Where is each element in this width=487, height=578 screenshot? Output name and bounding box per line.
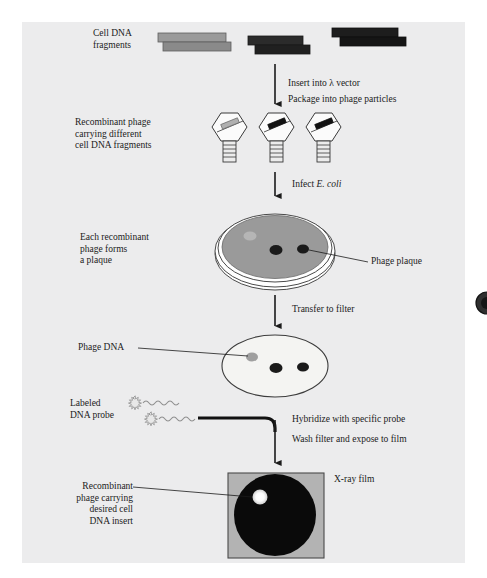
phage-1-tail bbox=[223, 141, 236, 162]
probe-1 bbox=[128, 396, 179, 410]
label-wash-and-expose: Wash filter and expose to film bbox=[292, 434, 407, 446]
probe-2 bbox=[144, 412, 195, 426]
spot-light bbox=[246, 353, 258, 362]
probe-delivery-line bbox=[198, 418, 275, 432]
film-exposure bbox=[234, 474, 316, 556]
labeled-dna-probes bbox=[128, 396, 195, 426]
label-transfer-to-filter: Transfer to filter bbox=[292, 304, 354, 316]
label-each-recombinant-plaque: Each recombinant phage forms a plaque bbox=[80, 232, 195, 267]
fragment-group-2 bbox=[248, 36, 310, 54]
nitrocellulose-filter bbox=[222, 335, 328, 397]
xray-film bbox=[228, 473, 324, 558]
plaque-dark-2 bbox=[297, 245, 309, 254]
phage-2 bbox=[259, 113, 294, 162]
cell-dna-fragments-group bbox=[158, 28, 406, 54]
figure-root: Cell DNA fragments Insert into λ vector … bbox=[0, 0, 487, 578]
label-cell-dna-fragments: Cell DNA fragments bbox=[93, 28, 163, 51]
signal-spot bbox=[253, 490, 268, 505]
label-package-into-phage: Package into phage particles bbox=[288, 94, 396, 106]
phage-3 bbox=[306, 113, 341, 162]
label-infect-ecoli: Infect E. coli bbox=[292, 179, 341, 191]
phage-3-tail bbox=[317, 141, 330, 162]
label-hybridize-with-probe: Hybridize with specific probe bbox=[292, 414, 405, 426]
label-insert-into-vector: Insert into λ vector bbox=[288, 78, 360, 90]
label-recombinant-desired: Recombinant phage carrying desired cell … bbox=[33, 481, 133, 527]
phage-particles-group bbox=[212, 113, 341, 162]
infect-ecoli-prefix: Infect bbox=[292, 179, 317, 189]
label-xray-film: X-ray film bbox=[334, 474, 374, 486]
label-recombinant-phage: Recombinant phage carrying different cel… bbox=[75, 117, 193, 152]
spot-dark-2 bbox=[297, 363, 309, 372]
plaque-light bbox=[244, 232, 257, 241]
phage-1 bbox=[212, 113, 247, 162]
infect-ecoli-species: E. coli bbox=[317, 179, 342, 189]
page-edge-marker bbox=[476, 292, 487, 314]
spot-dark-1 bbox=[270, 363, 283, 373]
label-phage-dna: Phage DNA bbox=[78, 342, 124, 354]
fragment-group-3 bbox=[332, 28, 406, 46]
label-phage-plaque: Phage plaque bbox=[371, 256, 422, 268]
fragment-group-1 bbox=[158, 33, 231, 51]
phage-2-tail bbox=[270, 141, 283, 162]
plaque-dark-1 bbox=[270, 245, 283, 255]
label-labeled-dna-probe: Labeled DNA probe bbox=[70, 398, 130, 421]
